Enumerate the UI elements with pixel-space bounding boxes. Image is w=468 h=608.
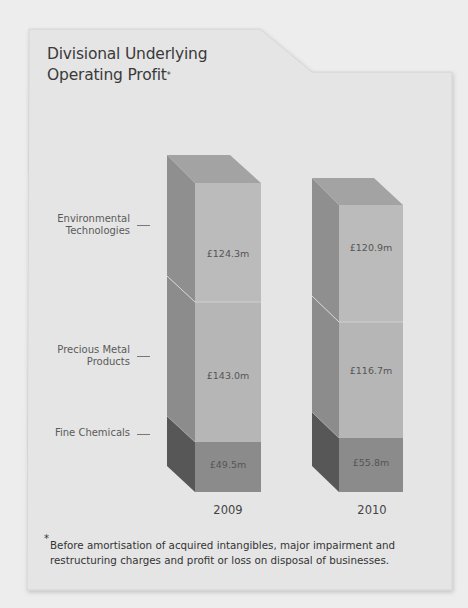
year-2009: 2009: [198, 503, 258, 517]
value-2009-fc: £49.5m: [195, 459, 261, 470]
bar-2010-pmp-front: [339, 322, 403, 438]
chart-title-line1: Divisional Underlying: [47, 44, 207, 65]
bar-2010-env-front: [339, 205, 403, 322]
bar-2009: [167, 155, 261, 492]
value-2009-pmp: £143.0m: [195, 370, 261, 381]
bar-2009-pmp-side: [167, 276, 195, 442]
chart-title-line2: Operating Profit*: [47, 65, 207, 86]
value-2010-fc: £55.8m: [339, 457, 403, 468]
legend-tick-pmp: [137, 356, 150, 357]
bar-2010: [312, 178, 403, 492]
bar-2009-env-front: [195, 183, 261, 302]
year-2010: 2010: [342, 503, 402, 517]
value-2010-pmp: £116.7m: [339, 365, 403, 376]
value-2009-env: £124.3m: [195, 248, 261, 259]
value-2010-env: £120.9m: [339, 242, 403, 253]
legend-precious-metal-products: Precious Metal Products: [30, 344, 130, 368]
legend-tick-fc: [137, 434, 150, 435]
footnote-text: Before amortisation of acquired intangib…: [50, 538, 450, 568]
footnote-star: *: [44, 533, 49, 544]
legend-fine-chemicals: Fine Chemicals: [30, 427, 130, 439]
footnote-marker: *: [167, 71, 171, 80]
legend-tick-env: [137, 225, 150, 226]
legend-environmental-technologies: Environmental Technologies: [30, 213, 130, 237]
chart-title: Divisional Underlying Operating Profit*: [47, 44, 207, 86]
